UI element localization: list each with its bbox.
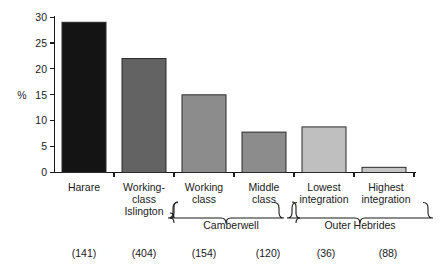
y-axis-title: % (17, 89, 26, 101)
category-label-lowest-integration-line2: integration (299, 193, 348, 205)
y-tick-marks (50, 17, 55, 172)
category-label-middle-class-line2: class (252, 193, 276, 205)
x-tick-marks (114, 173, 414, 178)
category-label-harare: Harare (68, 181, 100, 193)
y-tick-label: 10 (35, 114, 47, 126)
category-label-highest-integration-line2: integration (361, 193, 410, 205)
sample-size-working-class: (154) (192, 247, 217, 259)
bar-chart: 30 25 20 15 10 5 0 % (0, 0, 447, 280)
sample-size-islington: (404) (132, 247, 157, 259)
bar-working-class-islington (122, 59, 166, 173)
group-braces: Camberwell Outer Hebrides (168, 202, 433, 231)
bar-camberwell-working-class (182, 95, 226, 173)
y-tick-labels: 30 25 20 15 10 5 0 (35, 11, 47, 178)
category-label-islington-line2: class (132, 193, 156, 205)
y-tick-label: 5 (41, 140, 47, 152)
category-label-islington-line1: Working- (123, 181, 165, 193)
sample-size-harare: (141) (72, 247, 97, 259)
category-label-highest-integration-line1: Highest (368, 181, 404, 193)
y-tick-label: 15 (35, 89, 47, 101)
category-label-lowest-integration-line1: Lowest (307, 181, 340, 193)
sample-size-middle-class: (120) (256, 247, 281, 259)
y-tick-label: 0 (41, 166, 47, 178)
category-label-middle-class-line1: Middle (249, 181, 280, 193)
group-label-outer-hebrides: Outer Hebrides (324, 219, 395, 231)
category-label-working-class-line1: Working (185, 181, 223, 193)
bars (62, 22, 406, 172)
category-label-islington-line3: Islington (124, 205, 163, 217)
bar-hebrides-lowest-integration (302, 127, 346, 173)
bar-camberwell-middle-class (242, 132, 286, 172)
group-label-camberwell: Camberwell (203, 219, 258, 231)
chart-canvas: 30 25 20 15 10 5 0 % (0, 0, 447, 280)
sample-size-highest-integration: (88) (379, 247, 398, 259)
sample-size-labels: (141) (404) (154) (120) (36) (88) (72, 247, 398, 259)
bar-hebrides-highest-integration (362, 167, 406, 172)
category-labels: Harare Working- class Islington Working … (68, 181, 411, 217)
y-tick-label: 20 (35, 63, 47, 75)
category-label-working-class-line2: class (192, 193, 216, 205)
y-tick-label: 30 (35, 11, 47, 23)
bar-harare (62, 22, 106, 172)
y-tick-label: 25 (35, 37, 47, 49)
sample-size-lowest-integration: (36) (317, 247, 336, 259)
